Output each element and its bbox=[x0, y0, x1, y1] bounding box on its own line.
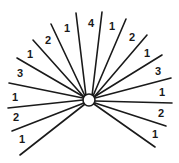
label-group: 412131211213121 bbox=[12, 17, 165, 145]
ray-line bbox=[94, 55, 162, 97]
ray-line bbox=[94, 104, 155, 147]
sector-count-label: 2 bbox=[13, 111, 19, 123]
ray-line bbox=[33, 40, 84, 97]
hub-circle bbox=[83, 94, 95, 106]
sector-count-label: 1 bbox=[27, 48, 33, 60]
ray-line bbox=[8, 100, 83, 108]
sector-count-label: 1 bbox=[159, 86, 165, 98]
sector-count-label: 3 bbox=[155, 65, 161, 77]
sector-count-label: 2 bbox=[158, 107, 164, 119]
ray-line bbox=[76, 13, 86, 96]
ray-line bbox=[94, 35, 147, 97]
ray-line bbox=[95, 101, 172, 103]
ray-line bbox=[51, 24, 85, 96]
sector-count-label: 1 bbox=[152, 128, 158, 140]
sector-count-label: 2 bbox=[45, 34, 51, 46]
sector-count-label: 1 bbox=[144, 47, 150, 59]
sector-count-label: 4 bbox=[88, 17, 95, 29]
sector-count-label: 2 bbox=[129, 31, 135, 43]
sector-count-label: 1 bbox=[12, 91, 18, 103]
sector-count-label: 1 bbox=[109, 20, 115, 32]
sector-count-label: 3 bbox=[17, 67, 23, 79]
sector-count-label: 1 bbox=[64, 22, 70, 34]
sector-count-label: 1 bbox=[19, 133, 25, 145]
ray-group bbox=[8, 12, 172, 155]
ray-line bbox=[20, 104, 85, 155]
radial-fan-diagram: 412131211213121 bbox=[0, 0, 179, 163]
ray-line bbox=[95, 103, 166, 126]
